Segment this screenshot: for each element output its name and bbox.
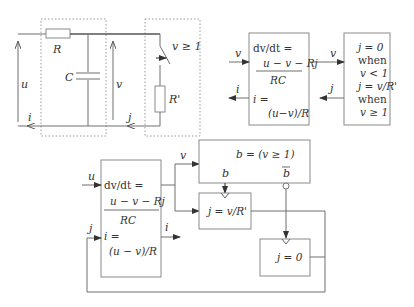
- resistor-r-prime: [155, 86, 165, 112]
- comparator-block: [199, 140, 310, 183]
- voltage-u-label: u: [21, 78, 28, 91]
- switch-logic-line-5: v ≥ 1: [360, 106, 388, 118]
- capacitor-label: C: [65, 71, 74, 84]
- output-label: i: [236, 83, 240, 96]
- current-j-label: j: [125, 111, 132, 124]
- bottom-input-u-label: u: [88, 170, 95, 183]
- bottom-output-v-label: v: [180, 149, 187, 162]
- integrator-line4: (u−v)/R: [268, 107, 309, 119]
- bottom-block-diagram: dv/dt = u − v − Rj RC i = (u − v)/R u j …: [82, 140, 325, 292]
- voltage-v-label: v: [116, 78, 123, 91]
- inactive-block-label: j = 0: [275, 251, 303, 263]
- resistor-r-prime-label: R': [168, 93, 180, 106]
- switch-logic-line-0: j = 0: [356, 41, 384, 53]
- resistor-r-label: R: [52, 43, 61, 56]
- integrator-denominator: RC: [269, 74, 286, 86]
- bottom-integrator-denominator: RC: [119, 214, 136, 226]
- integrator-line1: dv/dt =: [253, 42, 292, 54]
- switch-condition-label: v ≥ 1: [172, 40, 201, 53]
- input-label: v: [235, 47, 242, 60]
- bottom-integrator-line4: (u − v)/R: [109, 245, 157, 257]
- bottom-integrator-numerator: u − v − Rj: [110, 195, 166, 207]
- bottom-integrator-line3: i =: [104, 230, 120, 242]
- integrator-line3: i =: [253, 93, 269, 105]
- switch-subsystem-frame: [145, 19, 200, 136]
- top-block-diagram: dv/dt = u − v − Rj RC i = (u−v)/R j = 0 …: [229, 33, 397, 125]
- diagram-canvas: R C v ≥ 1 R' i j u v dv/dt = u − v − Rj: [0, 0, 414, 307]
- current-i-label: i: [28, 111, 32, 124]
- b-bar-inverter-circle: [283, 183, 289, 189]
- feedback-label: j: [327, 82, 334, 95]
- forward-label: v: [330, 47, 337, 60]
- bottom-output-i-label: i: [165, 221, 169, 234]
- switch-logic-line-4: when: [358, 93, 387, 105]
- switch-logic-line-2: v < 1: [360, 67, 388, 79]
- switch-logic-line-1: when: [358, 54, 387, 66]
- resistor-r: [46, 29, 70, 38]
- switch-logic-line-3: j = v/R': [356, 80, 397, 92]
- bottom-integrator-line1: dv/dt =: [104, 179, 143, 191]
- bottom-input-j-label: j: [86, 222, 93, 235]
- circuit-schematic: R C v ≥ 1 R' i j u v: [18, 19, 201, 136]
- active-block-label: j = v/R': [206, 205, 247, 217]
- comparator-label: b = (v ≥ 1): [236, 148, 294, 160]
- b-bar-label: b: [283, 167, 290, 180]
- integrator-numerator: u − v − Rj: [263, 57, 319, 69]
- b-label: b: [222, 167, 229, 180]
- switch-blade: [160, 46, 170, 64]
